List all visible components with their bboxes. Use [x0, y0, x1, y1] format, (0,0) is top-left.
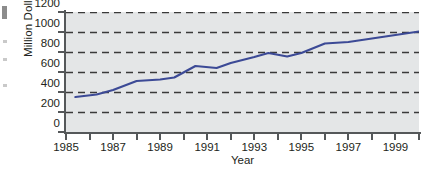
x-axis-line [64, 132, 421, 134]
x-axis-tick-mark [112, 134, 114, 140]
x-axis-tick-mark [324, 134, 326, 140]
x-axis-tick-mark [206, 134, 208, 140]
page-edge-artifact [2, 6, 7, 19]
y-axis-tick-label: 800 [20, 38, 60, 50]
page-edge-artifact [3, 58, 7, 61]
y-axis-tick-label: 1200 [20, 0, 60, 10]
line-chart-figure: Million Dollars 120010008006004002000 19… [0, 0, 429, 172]
y-axis-tick-mark [58, 71, 65, 73]
y-axis-tick-label: 0 [20, 118, 60, 130]
y-axis-tick-label: 200 [20, 98, 60, 110]
x-axis-tick-mark [253, 134, 255, 140]
x-axis-tick-mark [230, 134, 232, 140]
x-axis-tick-mark [65, 134, 67, 140]
x-axis-tick-mark [300, 134, 302, 140]
x-axis-tick-mark [183, 134, 185, 140]
x-axis-tick-mark [394, 134, 396, 140]
x-axis-tick-mark [159, 134, 161, 140]
x-axis-tick-mark [277, 134, 279, 140]
plot-svg [66, 12, 419, 132]
y-axis-tick-mark [58, 131, 65, 133]
y-axis-tick-mark [58, 51, 65, 53]
y-axis-tick-mark [58, 91, 65, 93]
y-axis-tick-label: 400 [20, 78, 60, 90]
y-axis-tick-mark [58, 111, 65, 113]
x-axis-tick-label: 1999 [365, 141, 425, 154]
page-edge-artifact [3, 40, 7, 43]
page-edge-artifact [3, 84, 7, 87]
x-axis-tick-mark [418, 134, 420, 140]
data-series-group [75, 32, 419, 98]
x-axis-title: Year [66, 154, 419, 167]
x-axis-tick-mark [89, 134, 91, 140]
y-axis-tick-mark [58, 31, 65, 33]
y-axis-tick-mark [58, 11, 65, 13]
plot-area [66, 12, 419, 132]
x-axis-tick-mark [136, 134, 138, 140]
y-axis-tick-label: 1000 [20, 18, 60, 30]
x-axis-tick-mark [347, 134, 349, 140]
x-axis-tick-mark [371, 134, 373, 140]
gridlines [66, 13, 419, 113]
y-axis-tick-label: 600 [20, 58, 60, 70]
data-series-line [75, 32, 419, 98]
